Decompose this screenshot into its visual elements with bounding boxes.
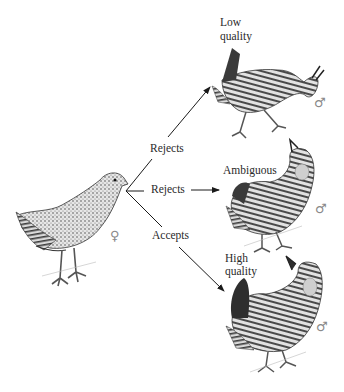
female-symbol-icon: ♀ bbox=[110, 229, 120, 242]
label-low-quality-line2: quality bbox=[220, 30, 252, 43]
label-high-quality-line1: High bbox=[225, 252, 248, 265]
label-high-quality-line2: quality bbox=[225, 265, 257, 278]
label-accepts: Accepts bbox=[152, 229, 189, 242]
male-symbol-icon-low: ♂ bbox=[314, 96, 326, 109]
label-ambiguous: Ambiguous bbox=[223, 164, 277, 177]
arrow-rejects-low bbox=[126, 87, 210, 191]
label-rejects-middle: Rejects bbox=[151, 183, 185, 196]
label-low-quality-line1: Low bbox=[220, 16, 241, 29]
mate-choice-diagram: Low quality Ambiguous High quality Rejec… bbox=[0, 0, 344, 392]
label-rejects-upper: Rejects bbox=[150, 142, 184, 155]
male-symbol-icon-ambiguous: ♂ bbox=[315, 202, 327, 215]
male-symbol-icon-high: ♂ bbox=[316, 320, 328, 333]
diagram-graphics bbox=[0, 0, 344, 392]
male-ambiguous-illustration bbox=[226, 140, 314, 252]
male-low-quality-illustration bbox=[212, 48, 324, 138]
